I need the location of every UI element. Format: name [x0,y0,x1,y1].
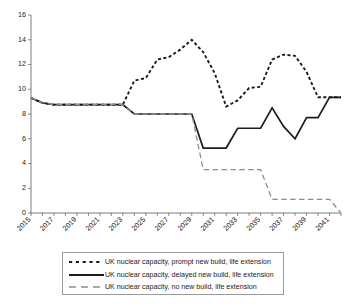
x-tick-label: 2031 [198,215,216,233]
x-tick-label: 2037 [267,215,285,233]
legend-label-no-new-build: UK nuclear capacity, no new build, life … [105,282,257,292]
y-tick-label: 16 [18,10,26,19]
chart-legend: UK nuclear capacity, prompt new build, l… [62,252,284,295]
y-tick-group: 1614121086420 [18,10,31,217]
chart-plot-area: 1614121086420 20152017201920212023202520… [0,0,346,250]
x-tick-label: 2041 [313,215,331,233]
dotted-line-swatch [67,257,105,267]
legend-label-delayed: UK nuclear capacity, delayed new build, … [105,270,274,280]
x-tick-label: 2027 [153,215,171,233]
x-tick-label: 2021 [84,215,102,233]
series-line-no-new-build [31,98,341,213]
y-axis-group: 1614121086420 [18,10,31,217]
y-tick-label: 10 [18,84,26,93]
dashed-line-swatch [67,282,105,292]
x-tick-label: 2029 [175,215,193,233]
y-tick-label: 6 [22,134,26,143]
x-tick-label: 2035 [244,215,262,233]
y-tick-label: 12 [18,59,26,68]
legend-item-delayed: UK nuclear capacity, delayed new build, … [67,269,279,282]
y-tick-label: 4 [22,158,26,167]
legend-item-prompt: UK nuclear capacity, prompt new build, l… [67,256,279,269]
x-tick-label: 2025 [130,215,148,233]
solid-line-swatch [67,270,105,280]
nuclear-capacity-chart: 1614121086420 20152017201920212023202520… [0,0,346,308]
x-tick-label: 2019 [61,215,79,233]
series-group [31,40,341,213]
x-tick-label: 2039 [290,215,308,233]
y-tick-label: 14 [18,35,26,44]
x-tick-label: 2033 [221,215,239,233]
x-tick-label: 2015 [15,215,33,233]
x-tick-label: 2017 [38,215,56,233]
legend-label-prompt: UK nuclear capacity, prompt new build, l… [105,257,271,267]
x-tick-label-group: 2015201720192021202320252027202920312033… [15,215,331,233]
legend-item-no-new-build: UK nuclear capacity, no new build, life … [67,281,279,294]
series-line-prompt-new-build [31,40,341,107]
y-tick-label: 8 [22,109,26,118]
x-tick-label: 2023 [107,215,125,233]
y-tick-label: 2 [22,183,26,192]
